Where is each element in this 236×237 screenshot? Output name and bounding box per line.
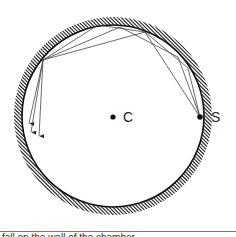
source-point: [197, 114, 203, 120]
caption-line: fall on the wall of the chamber...: [2, 233, 143, 237]
center-label: C: [123, 110, 133, 124]
whispering-gallery-diagram: C S fall on the wall of the chamber...: [0, 0, 236, 237]
diagram-canvas: [0, 0, 236, 237]
source-label: S: [211, 110, 220, 124]
caption-separator: [0, 231, 236, 232]
center-point: [110, 114, 115, 119]
caption-text: fall on the wall of the chamber...: [2, 233, 182, 237]
